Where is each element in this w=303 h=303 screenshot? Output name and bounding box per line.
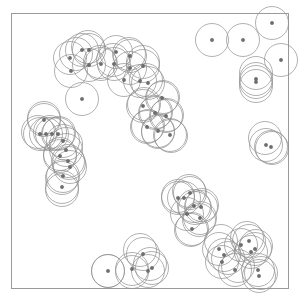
site-point	[80, 97, 83, 100]
site-point	[233, 268, 236, 271]
site-point	[239, 243, 242, 246]
site-point	[60, 185, 63, 188]
site-point	[150, 266, 153, 269]
coverage-disk	[124, 234, 157, 267]
site-point	[122, 78, 125, 81]
site-point	[66, 159, 69, 162]
site-point	[68, 56, 71, 59]
site-point	[106, 269, 109, 272]
site-point	[68, 165, 71, 168]
site-point	[185, 212, 188, 215]
site-point	[112, 62, 115, 65]
site-point	[87, 63, 90, 66]
site-point	[64, 148, 67, 151]
site-point	[241, 38, 244, 41]
site-point	[128, 66, 131, 69]
site-point	[270, 21, 273, 24]
site-point	[138, 79, 141, 82]
site-point	[146, 269, 149, 272]
site-point	[188, 191, 191, 194]
site-point	[69, 69, 72, 72]
site-point	[160, 96, 163, 99]
site-point	[199, 205, 202, 208]
site-point	[247, 239, 250, 242]
site-point	[220, 260, 223, 263]
site-point	[44, 132, 47, 135]
site-point	[182, 196, 185, 199]
site-point	[217, 247, 220, 250]
site-point	[254, 80, 257, 83]
site-point	[190, 227, 193, 230]
plot-canvas	[0, 0, 303, 303]
site-point	[99, 62, 102, 65]
coverage-disk	[240, 70, 273, 103]
site-point	[56, 132, 59, 135]
site-point	[222, 253, 225, 256]
site-point	[257, 274, 260, 277]
site-point	[153, 111, 156, 114]
site-point	[164, 114, 167, 117]
coverage-disk	[72, 31, 105, 64]
site-point	[253, 247, 256, 250]
site-point	[80, 48, 83, 51]
site-point	[264, 143, 267, 146]
site-point	[50, 132, 53, 135]
site-point	[141, 64, 144, 67]
disk-coverage-figure	[0, 0, 303, 303]
site-point	[61, 174, 64, 177]
site-point	[198, 216, 201, 219]
site-point	[141, 104, 144, 107]
coverage-disk	[240, 57, 273, 90]
coverage-disk	[127, 46, 160, 79]
site-point	[279, 58, 282, 61]
site-point	[192, 204, 195, 207]
site-point	[168, 133, 171, 136]
site-point	[210, 38, 213, 41]
site-point	[145, 125, 148, 128]
site-point	[58, 154, 61, 157]
coverage-disk	[113, 38, 146, 71]
site-point	[249, 250, 252, 253]
site-point	[256, 268, 259, 271]
site-point	[128, 54, 131, 57]
coverage-disk	[249, 122, 282, 155]
site-point	[156, 129, 159, 132]
site-point	[141, 252, 144, 255]
site-point	[61, 139, 64, 142]
coverage-disk	[183, 204, 216, 237]
site-point	[87, 48, 90, 51]
site-point	[176, 196, 179, 199]
site-point	[114, 50, 117, 53]
site-point	[269, 145, 272, 148]
site-point	[130, 267, 133, 270]
coverage-disk	[134, 248, 167, 281]
site-point	[42, 118, 45, 121]
site-point	[38, 132, 41, 135]
site-point	[146, 81, 149, 84]
